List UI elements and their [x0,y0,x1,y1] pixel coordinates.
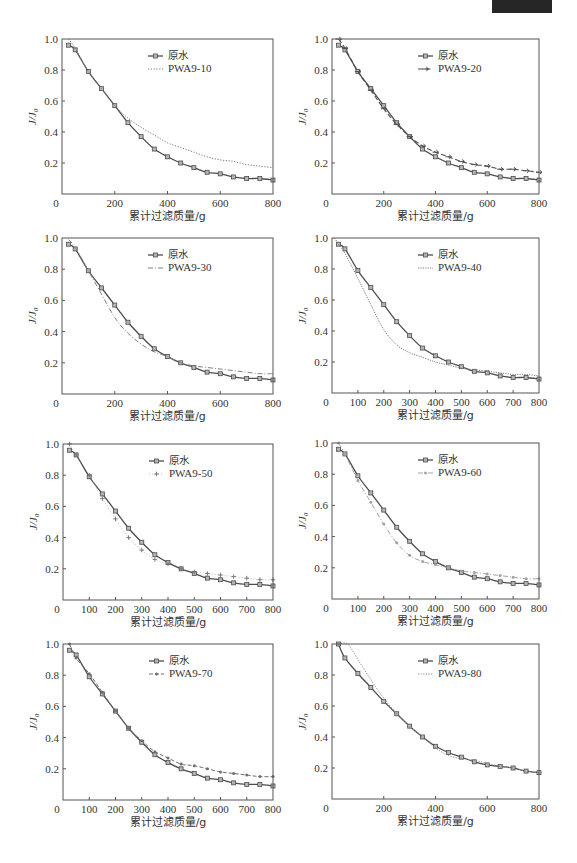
y-axis-label: J/J0 [295,501,309,541]
x-tick-label: 400 [427,197,444,209]
y-axis-label-main: J/J [27,517,39,530]
legend-item-raw-water: 原水 [418,248,481,261]
y-tick-label: 0.2 [314,562,328,574]
x-axis-label: 累计过滤质量/g [312,816,559,828]
legend: 原水 PWA9-80 [418,654,481,680]
data-point-marker [152,347,156,351]
data-point-marker [152,147,156,151]
data-point-marker [153,557,158,562]
y-axis-label-subscript: 0 [32,108,40,112]
data-point-marker [421,346,425,350]
data-point-marker [524,376,528,380]
legend: 原水 PWA9-40 [418,248,481,274]
x-tick-label: 600 [479,802,496,814]
legend-swatch-icon [149,657,164,665]
legend-label: 原水 [168,248,188,261]
data-point-marker [433,150,439,154]
x-tick-label: 700 [505,602,522,614]
data-point-marker [232,772,235,775]
x-tick-label: 800 [265,803,282,815]
x-tick-label: 0 [53,197,59,209]
legend-item-sample: PWA9-10 [148,62,211,75]
y-tick-label: 0.6 [314,95,328,107]
data-point-marker [114,710,117,713]
y-axis-label: J/J0 [26,502,40,542]
legend-item-sample: PWA9-80 [418,667,481,680]
data-point-marker [484,164,490,168]
data-point-marker [382,523,385,526]
data-point-marker [154,253,158,257]
data-point-marker [232,781,236,785]
x-tick-label: 600 [212,197,229,209]
x-tick-label: 0 [323,197,329,209]
x-tick-label: 600 [479,602,496,614]
x-tick-label: 200 [107,397,124,409]
chart-panel-pwa9-80: J/J0 累计过滤质量/g 原水 PWA9-80 02004006008000.… [332,644,539,799]
legend-item-raw-water: 原水 [149,454,212,467]
legend-item-raw-water: 原水 [148,248,211,261]
chart-panel-pwa9-70: J/J0 累计过滤质量/g 原水 PWA9-70 010020030040050… [63,644,273,800]
y-axis-label-main: J/J [296,516,308,529]
y-axis-label-main: J/J [26,112,38,125]
data-point-marker [140,540,144,544]
legend-swatch-icon [149,457,164,465]
legend-item-sample: PWA9-60 [418,466,481,479]
data-point-marker [485,172,489,176]
data-point-marker [258,782,262,786]
y-tick-label: 0.8 [314,669,328,681]
legend-swatch-icon [418,469,433,477]
legend-label: PWA9-40 [438,261,481,274]
x-tick-label: 200 [107,197,124,209]
data-point-marker [206,767,209,770]
data-point-marker [155,659,159,663]
y-tick-label: 0.8 [45,669,59,681]
y-tick-label: 0.8 [44,263,58,275]
y-axis-label-main: J/J [296,717,308,730]
data-point-marker [499,574,502,577]
data-point-marker [219,778,223,782]
x-tick-label: 800 [531,396,548,408]
data-point-marker [486,573,489,576]
data-point-marker [511,177,515,181]
data-point-marker [218,573,223,578]
legend-swatch-icon [418,65,433,73]
data-point-marker [356,671,360,675]
legend-label: PWA9-10 [168,62,211,75]
y-axis-label-main: J/J [296,311,308,324]
data-point-marker [154,54,158,58]
legend-swatch-icon [149,670,164,678]
data-point-marker [245,376,249,380]
data-point-marker [512,576,515,579]
data-point-marker [369,501,372,504]
x-tick-label: 800 [531,802,548,814]
data-point-marker [192,166,196,170]
data-point-marker [382,699,386,703]
legend-swatch-icon [418,264,433,272]
x-tick-label: 200 [107,803,124,815]
data-point-marker [525,577,528,580]
y-tick-label: 0.6 [45,700,59,712]
y-tick-label: 1.0 [44,232,58,244]
legend-item-raw-water: 原水 [149,654,212,667]
data-point-marker [424,458,428,462]
y-tick-label: 0.8 [314,64,328,76]
x-tick-label: 0 [323,602,329,614]
x-tick-label: 500 [186,603,203,615]
legend-label: PWA9-20 [438,62,481,75]
data-point-marker [343,656,347,660]
data-point-marker [155,459,159,463]
data-point-marker [192,771,196,775]
legend-label: PWA9-80 [438,667,481,680]
y-tick-label: 0.6 [314,700,328,712]
x-tick-label: 800 [531,602,548,614]
data-point-marker [167,756,170,759]
y-tick-label: 0.4 [44,126,58,138]
y-tick-label: 0.2 [314,762,328,774]
x-tick-label: 600 [479,396,496,408]
data-point-marker [446,751,450,755]
data-point-marker [179,767,183,771]
x-tick-label: 400 [160,603,177,615]
x-tick-label: 700 [505,396,522,408]
x-tick-label: 0 [323,802,329,814]
y-tick-label: 0.6 [314,294,328,306]
